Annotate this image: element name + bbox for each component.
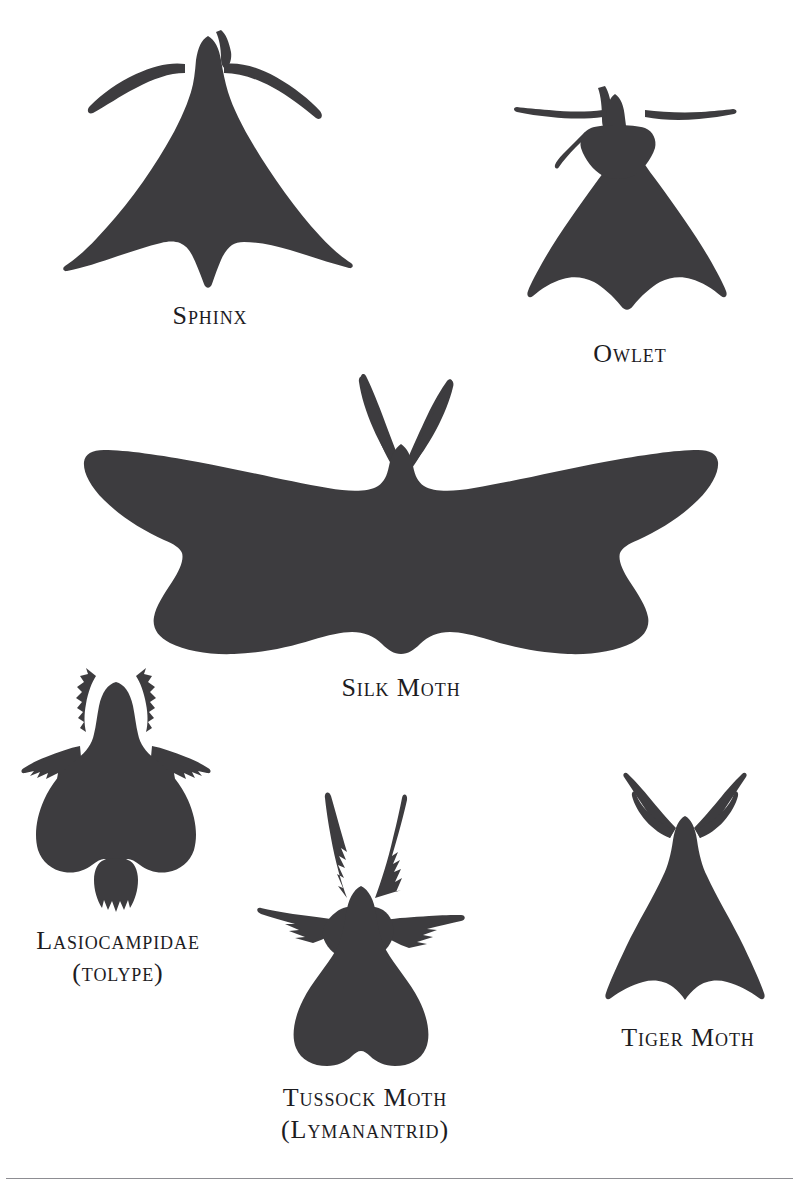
lasiocampidae-label: Lasiocampidae (tolype): [8, 925, 228, 988]
lasiocampidae-label-line-2: (tolype): [8, 957, 228, 989]
footer-divider: [6, 1178, 793, 1179]
tiger-moth-label-line-1: Tiger Moth: [588, 1022, 788, 1054]
tiger-moth-figure: [588, 772, 783, 1012]
sphinx-moth-figure: [58, 22, 358, 292]
moth-plate-page: Sphinx: [0, 0, 799, 1197]
owlet-moth-silhouette: [505, 84, 745, 324]
silk-moth-label: Silk Moth: [301, 672, 501, 704]
tussock-moth-label-line-1: Tussock Moth: [250, 1082, 480, 1114]
sphinx-label: Sphinx: [110, 300, 310, 332]
lasiocampidae-label-line-1: Lasiocampidae: [8, 925, 228, 957]
owlet-label-line-1: Owlet: [530, 338, 730, 370]
tussock-moth-figure: [255, 790, 470, 1070]
silk-moth-figure: [82, 374, 720, 664]
lasiocampidae-moth-silhouette: [18, 668, 218, 918]
sphinx-label-line-1: Sphinx: [110, 300, 310, 332]
owlet-label: Owlet: [530, 338, 730, 370]
silk-moth-silhouette: [82, 374, 720, 664]
sphinx-moth-silhouette: [58, 22, 358, 292]
plate-canvas: Sphinx: [0, 0, 799, 1197]
owlet-moth-figure: [505, 84, 745, 324]
tussock-moth-label-line-2: (Lymanantrid): [250, 1114, 480, 1146]
tussock-moth-label: Tussock Moth (Lymanantrid): [250, 1082, 480, 1145]
silk-moth-label-line-1: Silk Moth: [301, 672, 501, 704]
tussock-moth-silhouette: [255, 790, 470, 1070]
tiger-moth-silhouette: [588, 772, 783, 1012]
tiger-moth-label: Tiger Moth: [588, 1022, 788, 1054]
lasiocampidae-moth-figure: [18, 668, 218, 918]
